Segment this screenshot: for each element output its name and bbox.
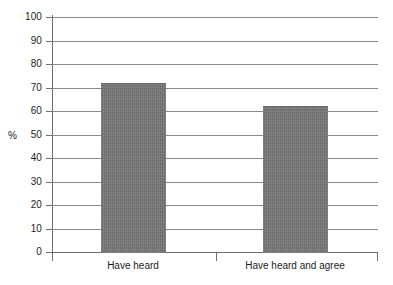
y-tick-label-70: 70 — [0, 83, 42, 93]
bar-1 — [263, 106, 328, 253]
y-tick-label-20: 20 — [0, 200, 42, 210]
y-tick-label-30: 30 — [0, 177, 42, 187]
category-label-1: Have heard and agree — [205, 260, 385, 272]
y-tick-label-60: 60 — [0, 106, 42, 116]
category-label-0: Have heard — [43, 260, 223, 272]
gridline-80 — [52, 64, 378, 65]
y-tick-label-90: 90 — [0, 36, 42, 46]
plot-area — [52, 17, 378, 252]
bar-0 — [101, 83, 166, 253]
bar-chart: % 0102030405060708090100 Have heardHave … — [0, 0, 393, 285]
y-tick-label-40: 40 — [0, 153, 42, 163]
gridline-100 — [52, 17, 378, 18]
y-tick-label-100: 100 — [0, 12, 42, 22]
y-tick-label-10: 10 — [0, 224, 42, 234]
y-tick-label-50: 50 — [0, 130, 42, 140]
y-tick-label-80: 80 — [0, 59, 42, 69]
y-tick-label-0: 0 — [0, 247, 42, 257]
gridline-90 — [52, 41, 378, 42]
